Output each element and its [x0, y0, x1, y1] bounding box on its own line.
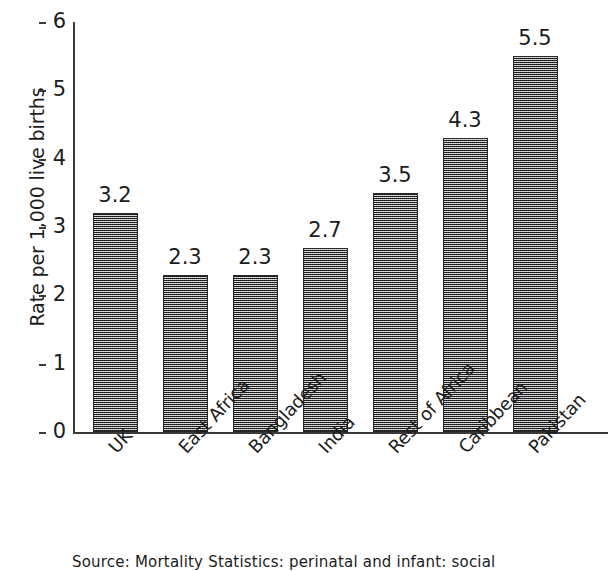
bar-value-rest-of-africa: 3.5	[360, 165, 430, 186]
bar-pakistan	[513, 56, 558, 432]
source-note: Source: Mortality Statistics: perinatal …	[72, 553, 495, 571]
bar-rest-of-africa	[373, 193, 418, 432]
bar-india	[303, 248, 348, 432]
bar-value-east-africa: 2.3	[150, 247, 220, 268]
bar-east-africa	[163, 275, 208, 432]
bar-value-uk: 3.2	[80, 185, 150, 206]
bar-uk	[93, 213, 138, 432]
bar-value-india: 2.7	[290, 220, 360, 241]
bar-value-caribbean: 4.3	[430, 110, 500, 131]
y-tick-mark-2	[39, 295, 46, 297]
y-tick-mark-5	[39, 90, 46, 92]
y-tick-mark-4	[39, 159, 46, 161]
y-tick-mark-3	[39, 227, 46, 229]
y-tick-mark-1	[39, 364, 46, 366]
y-axis-line	[73, 22, 75, 433]
bar-value-pakistan: 5.5	[500, 28, 570, 49]
bar-bangladesh	[233, 275, 278, 432]
y-tick-mark-0	[39, 432, 46, 434]
bar-value-bangladesh: 2.3	[220, 247, 290, 268]
y-tick-mark-6	[39, 22, 46, 24]
